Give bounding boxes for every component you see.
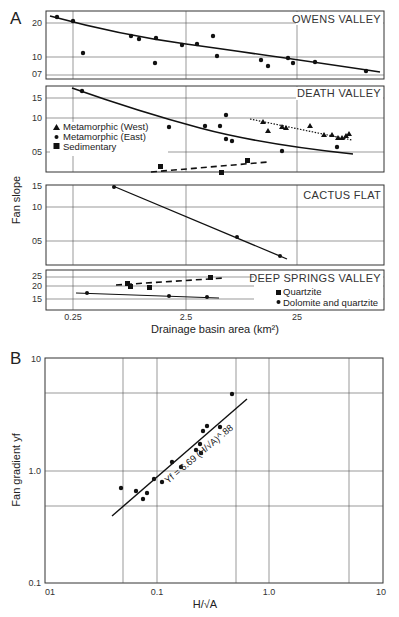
y-axis-label-fan-gradient: Fan gradient yf: [10, 432, 22, 506]
subplot-deep-springs-valley: DEEP SPRINGS VALLEY Quartzite Dolomite a…: [32, 270, 384, 310]
cactus-flat-title: CACTUS FLAT: [303, 189, 381, 201]
legend-quartzite: Quartzite: [283, 286, 322, 297]
y-tick: 05: [32, 236, 42, 246]
y-tick: 1.0: [28, 466, 41, 476]
x-tick: 1.0: [263, 587, 276, 597]
death-valley-title: DEATH VALLEY: [297, 87, 381, 99]
y-tick: 20: [32, 281, 42, 291]
fit-line: [112, 399, 247, 516]
owens-valley-title: OWENS VALLEY: [292, 13, 381, 25]
y-tick: 25: [32, 271, 42, 281]
legend-sedimentary: Sedimentary: [63, 141, 117, 152]
y-tick: 15: [32, 93, 42, 103]
deep-springs-title: DEEP SPRINGS VALLEY: [249, 272, 381, 284]
x-tick: 2.5: [180, 312, 193, 322]
x-tick: 25: [292, 312, 302, 322]
y-tick: 10: [32, 113, 42, 123]
legend-dolomite-quartzite: Dolomite and quartzite: [283, 297, 378, 308]
figure-canvas: A OWENS VALLEY 20 10 07 DE: [0, 0, 399, 617]
circle-marker-icon: [277, 300, 281, 304]
panel-b-plot: 10 1.0 0.1 Yf = 6.69 (H/√A)^.88: [28, 354, 383, 588]
y-tick: 10: [32, 52, 42, 62]
y-tick: 15: [32, 181, 42, 191]
dolomite-fit-line: [76, 293, 219, 298]
square-marker-icon: [54, 143, 60, 149]
y-tick: 10: [31, 354, 41, 364]
x-tick: 0.25: [64, 312, 82, 322]
y-tick: 07: [32, 69, 42, 79]
y-tick: 05: [32, 147, 42, 157]
y-axis-label-fan-slope: Fan slope: [10, 176, 22, 224]
y-tick: 15: [32, 294, 42, 304]
x-axis-label-h-sqrt-a: H/√A: [193, 598, 218, 610]
panel-a-label: A: [10, 9, 22, 28]
x-tick: 0.1: [151, 587, 164, 597]
metamorphic-west-points: [260, 119, 352, 140]
subplot-cactus-flat: CACTUS FLAT 15 10 05: [32, 181, 384, 265]
quartzite-fit-line: [116, 278, 224, 285]
metamorphic-west-fit-line: [250, 119, 352, 140]
circle-marker-icon: [55, 135, 59, 139]
regression-equation: Yf = 6.69 (H/√A)^.88: [162, 422, 235, 486]
panel-b-data-points: [119, 392, 234, 501]
subplot-owens-valley: OWENS VALLEY 20 10 07: [32, 11, 384, 79]
cactus-fit-line: [113, 186, 287, 259]
panel-b-label: B: [10, 349, 21, 368]
sedimentary-fit-line: [151, 162, 268, 172]
y-tick: 20: [32, 18, 42, 28]
x-axis-label-drainage: Drainage basin area (km²): [151, 323, 279, 335]
subplot-death-valley: DEATH VALLEY 15 10 05 Metamorphic (West)…: [32, 86, 384, 175]
y-tick: 10: [32, 202, 42, 212]
square-marker-icon: [276, 290, 281, 295]
x-tick: 01: [45, 587, 55, 597]
x-tick: 10: [376, 587, 386, 597]
y-tick: 0.1: [28, 578, 41, 588]
